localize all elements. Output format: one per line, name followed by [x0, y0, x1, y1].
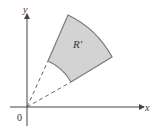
y-axis-label: y: [22, 4, 28, 15]
x-axis-label: x: [144, 102, 150, 113]
region-label: R′: [72, 38, 83, 50]
dashed-ray-upper: [27, 61, 48, 107]
origin-label: 0: [17, 112, 22, 123]
polar-region-diagram: R′ x y 0: [0, 0, 156, 138]
dashed-ray-lower: [27, 82, 71, 107]
